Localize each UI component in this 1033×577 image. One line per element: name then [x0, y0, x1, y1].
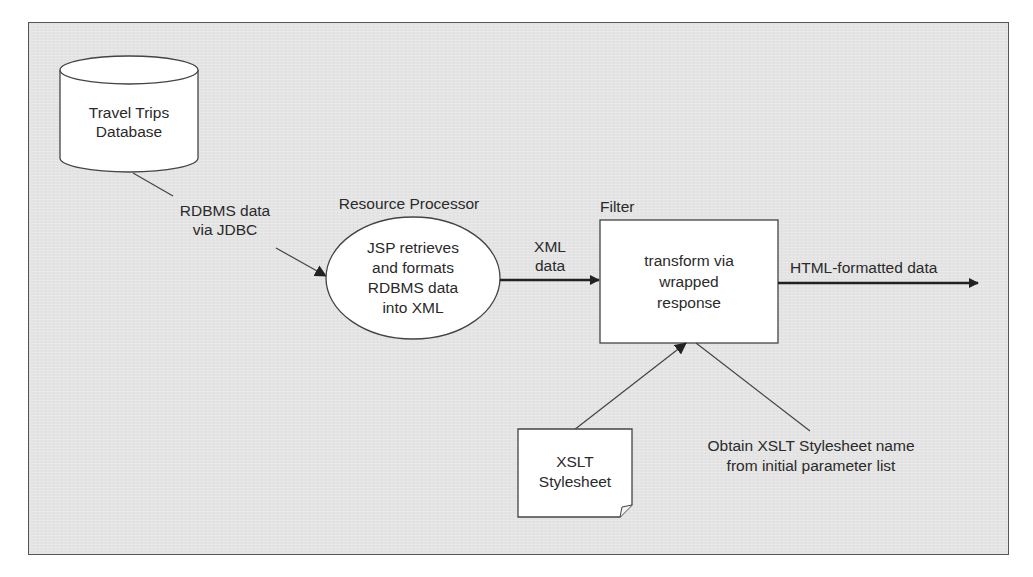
resource-processor-label: JSP retrieves and formats RDBMS data int… [336, 238, 490, 318]
resource-processor-line2: and formats [336, 258, 490, 278]
database-label-line2: Database [60, 122, 198, 141]
filter-line3: response [600, 292, 778, 313]
jdbc-arrow [276, 248, 326, 276]
annotation-line2: from initial parameter list [686, 456, 936, 476]
diagram-canvas [0, 0, 1033, 577]
jdbc-edge-line2: via JDBC [160, 220, 290, 239]
xslt-line1: XSLT [518, 452, 632, 472]
annotation-line1: Obtain XSLT Stylesheet name [686, 436, 936, 456]
annotation-label: Obtain XSLT Stylesheet name from initial… [686, 436, 936, 476]
xslt-line2: Stylesheet [518, 472, 632, 492]
resource-processor-line4: into XML [336, 298, 490, 318]
html-output-label: HTML-formatted data [790, 258, 937, 277]
database-label-line1: Travel Trips [60, 103, 198, 122]
annotation-line [696, 343, 810, 431]
stylesheet-arrow [574, 343, 686, 430]
jdbc-edge-label: RDBMS data via JDBC [160, 201, 290, 239]
resource-processor-line3: RDBMS data [336, 278, 490, 298]
filter-title: Filter [600, 197, 634, 216]
xml-edge-label: XML data [522, 237, 578, 275]
filter-label: transform via wrapped response [600, 250, 778, 313]
xslt-document-label: XSLT Stylesheet [518, 452, 632, 492]
xml-edge-line2: data [522, 256, 578, 275]
filter-line1: transform via [600, 250, 778, 271]
resource-processor-title: Resource Processor [326, 194, 492, 213]
resource-processor-line1: JSP retrieves [336, 238, 490, 258]
xml-edge-line1: XML [522, 237, 578, 256]
jdbc-edge-line1: RDBMS data [160, 201, 290, 220]
db-connector-line [133, 173, 173, 196]
filter-line2: wrapped [600, 271, 778, 292]
database-label: Travel Trips Database [60, 103, 198, 141]
